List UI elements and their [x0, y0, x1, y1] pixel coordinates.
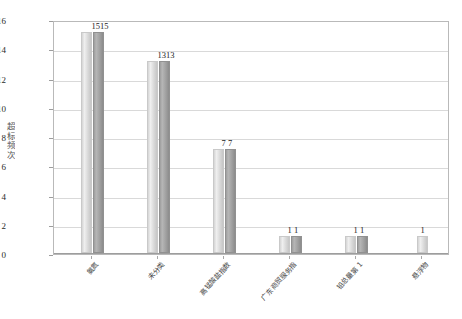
bar-value-label: 1 1 [288, 225, 299, 235]
x-axis-label-3: 广东商贸服务指 [258, 259, 298, 302]
bar-group: 1515 [68, 32, 116, 253]
x-axis-label-4: 铅总量第 1 [334, 259, 365, 291]
y-tick-mark [49, 255, 53, 256]
x-axis-label-1: 未分类 [145, 259, 166, 281]
y-tick-2: 2 [0, 221, 6, 231]
bar-value-label: 1313 [158, 50, 175, 60]
x-axis-label-2: 高锰酸盐指数 [197, 259, 233, 297]
bar-chart: 超标频次 16 14 12 10 8 6 4 2 0 1515 [0, 0, 462, 319]
y-tick-10: 10 [0, 104, 6, 114]
y-tick-4: 4 [0, 192, 6, 202]
bar-series1[interactable]: 7 7 [213, 149, 224, 253]
x-axis-label-0: 氨氮 [84, 259, 101, 276]
plot-area: 1515 1313 7 7 1 1 1 [53, 21, 449, 255]
bar-value-label: 7 7 [222, 138, 233, 148]
bar-value-label: 1 1 [354, 225, 365, 235]
bar-series2[interactable] [291, 236, 302, 253]
y-tick-16: 16 [0, 16, 6, 26]
bar-series2[interactable] [159, 61, 170, 253]
y-tick-8: 8 [0, 133, 6, 143]
bar-series2[interactable] [225, 149, 236, 253]
bar-group: 7 7 [200, 149, 248, 253]
bar-group: 1 1 [332, 236, 380, 253]
bar-group: 1 [398, 236, 446, 253]
x-axis-label-5: 悬浮物 [409, 259, 430, 281]
bar-series2[interactable] [357, 236, 368, 253]
y-tick-0: 0 [0, 250, 6, 260]
bar-value-label: 1 [421, 225, 425, 235]
chart-footnote [96, 303, 396, 315]
bar-group: 1313 [134, 61, 182, 253]
bar-series2[interactable] [93, 32, 104, 253]
y-tick-12: 12 [0, 75, 6, 85]
bar-series1[interactable]: 1313 [147, 61, 158, 253]
bar-series1[interactable]: 1515 [81, 32, 92, 253]
bar-series1[interactable]: 1 [417, 236, 428, 253]
y-tick-14: 14 [0, 45, 6, 55]
bar-series1[interactable]: 1 1 [345, 236, 356, 253]
bar-value-label: 1515 [92, 21, 109, 31]
axis-baseline [54, 253, 448, 254]
bar-series1[interactable]: 1 1 [279, 236, 290, 253]
bar-group: 1 1 [266, 236, 314, 253]
y-tick-6: 6 [0, 162, 6, 172]
